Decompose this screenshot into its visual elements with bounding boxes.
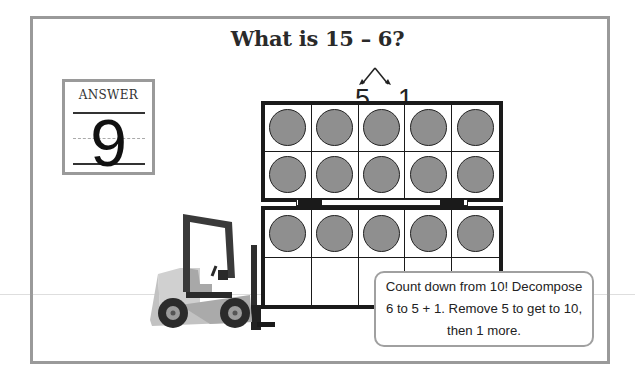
forklift-icon xyxy=(140,210,275,335)
ten-frame-cell xyxy=(359,152,406,199)
ten-frame-cell xyxy=(452,105,499,152)
counter-dot-icon xyxy=(316,156,353,193)
counter-dot-icon xyxy=(410,215,447,252)
counter-dot-icon xyxy=(269,109,306,146)
hint-text: Count down from 10! Decompose 6 to 5 + 1… xyxy=(382,276,586,342)
answer-card: ANSWER 9 xyxy=(62,79,155,175)
counter-dot-icon xyxy=(363,156,400,193)
counter-dot-icon xyxy=(316,109,353,146)
ten-frame-cell xyxy=(405,105,452,152)
problem-title: What is 15 – 6? xyxy=(0,26,635,51)
counter-dot-icon xyxy=(457,156,494,193)
ten-frame-cell xyxy=(312,258,359,306)
ten-frame-cell xyxy=(312,210,359,258)
ten-frame-cell xyxy=(359,210,406,258)
answer-value: 9 xyxy=(65,110,152,176)
counter-dot-icon xyxy=(363,215,400,252)
counter-dot-icon xyxy=(316,215,353,252)
counter-dot-icon xyxy=(269,215,306,252)
counter-dot-icon xyxy=(410,109,447,146)
counter-dot-icon xyxy=(457,109,494,146)
counter-dot-icon xyxy=(457,215,494,252)
ten-frame-cell xyxy=(265,105,312,152)
counter-dot-icon xyxy=(269,156,306,193)
top-ten-frame xyxy=(261,101,503,202)
ten-frame-cell xyxy=(312,152,359,199)
ten-frame-cell xyxy=(405,210,452,258)
ten-frame-cell xyxy=(359,105,406,152)
answer-label: ANSWER xyxy=(65,88,152,102)
ten-frame-cell xyxy=(452,210,499,258)
counter-dot-icon xyxy=(363,109,400,146)
hint-callout: Count down from 10! Decompose 6 to 5 + 1… xyxy=(374,271,594,347)
ten-frame-cell xyxy=(265,258,312,306)
ten-frame-cell xyxy=(405,152,452,199)
ten-frame-cell xyxy=(265,210,312,258)
counter-dot-icon xyxy=(410,156,447,193)
ten-frame-cell xyxy=(452,152,499,199)
ten-frame-cell xyxy=(265,152,312,199)
ten-frame-cell xyxy=(312,105,359,152)
